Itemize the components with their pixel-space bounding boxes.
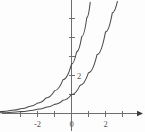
x-axis-arrow-icon — [137, 111, 143, 116]
exponential-plot-figure: -2 0 2 2 — [0, 0, 145, 132]
curves-group — [0, 1, 117, 112]
exponential-curve-right — [0, 1, 117, 112]
exponential-curve-left — [0, 2, 90, 111]
plot-canvas: -2 0 2 2 — [0, 0, 145, 132]
x-tick-label-neg2: -2 — [34, 119, 41, 129]
y-tick-label-two: 2 — [77, 71, 81, 81]
x-axis-group: -2 0 2 — [2, 111, 143, 130]
x-tick-label-pos2: 2 — [103, 119, 107, 129]
y-axis-group: 2 — [69, 0, 82, 131]
